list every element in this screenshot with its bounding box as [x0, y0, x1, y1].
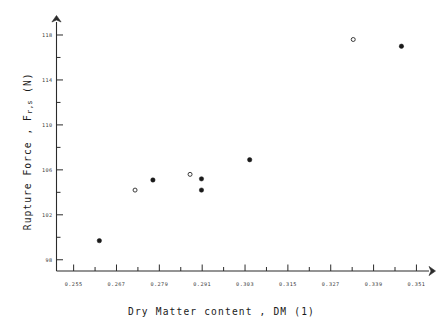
y-axis-title-unit: (N): [22, 72, 33, 92]
y-axis-title-subscript: r,s: [25, 100, 34, 114]
x-tick-label: 0.255: [65, 281, 83, 287]
data-point-filled: [199, 188, 203, 192]
x-tick-label: 0.291: [193, 281, 211, 287]
x-tick-label: 0.279: [150, 281, 168, 287]
x-tick-label: 0.267: [108, 281, 126, 287]
y-axis-title: Rupture Force , Fr,s(N): [22, 46, 35, 256]
y-tick-label: 98: [39, 257, 53, 263]
y-tick-label: 110: [39, 122, 53, 128]
x-tick-label: 0.327: [322, 281, 340, 287]
x-tick-label: 0.315: [279, 281, 297, 287]
x-axis-arrowhead: [429, 266, 436, 275]
y-tick-label: 114: [39, 77, 53, 83]
y-axis-arrowhead: [52, 16, 61, 23]
data-point-open: [351, 37, 355, 41]
y-tick-label: 106: [39, 167, 53, 173]
y-tick-label: 118: [39, 32, 53, 38]
data-point-open: [188, 172, 192, 176]
data-point-filled: [151, 178, 155, 182]
plot-area: 0.2550.2670.2790.2910.3030.3150.3270.339…: [0, 0, 443, 332]
data-point-filled: [199, 177, 203, 181]
data-point-open: [133, 188, 137, 192]
y-tick-label: 102: [39, 212, 53, 218]
y-axis-title-main: Rupture Force , F: [22, 114, 33, 230]
data-marker-group: [97, 37, 403, 242]
axis-group: [52, 16, 436, 276]
data-point-filled: [399, 44, 403, 48]
scatter-plot-figure: 0.2550.2670.2790.2910.3030.3150.3270.339…: [0, 0, 443, 332]
data-point-filled: [247, 158, 251, 162]
tick-group: [57, 35, 417, 271]
x-axis-title: Dry Matter content , DM (1): [0, 306, 443, 317]
x-tick-label: 0.339: [365, 281, 383, 287]
x-tick-label: 0.303: [236, 281, 254, 287]
data-point-filled: [97, 238, 101, 242]
x-tick-label: 0.351: [407, 281, 425, 287]
